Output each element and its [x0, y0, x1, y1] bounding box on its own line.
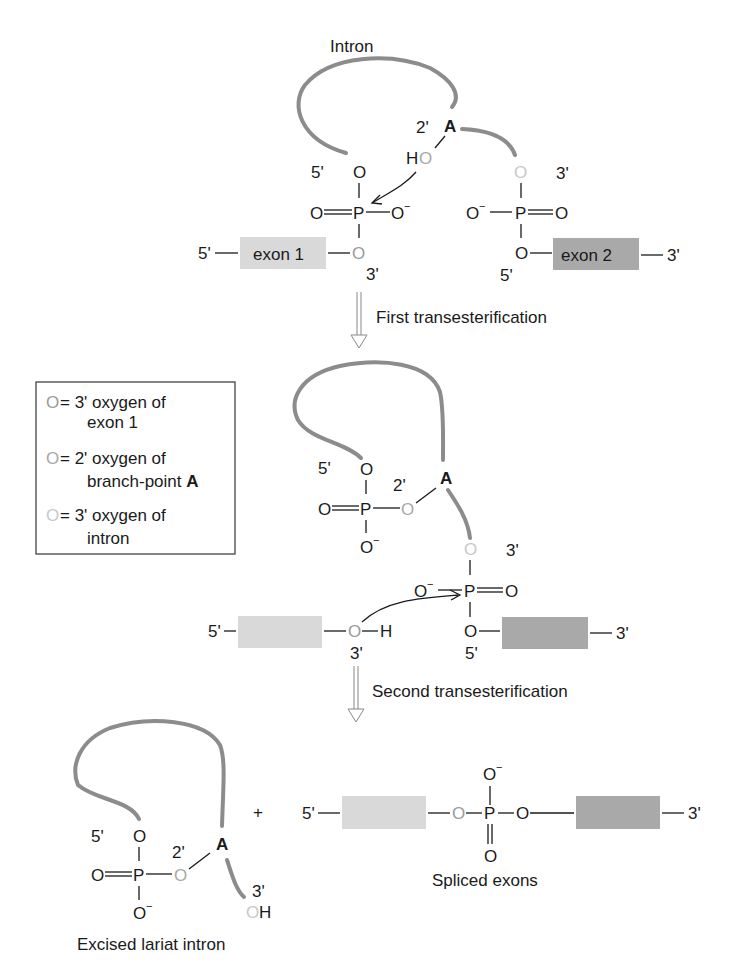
exon2-3prime: 3'	[616, 624, 629, 643]
oxygen: O	[464, 622, 477, 641]
oxygen: O	[484, 847, 497, 866]
oxygen-branch-a: O	[401, 500, 414, 519]
second-transesterification-label: Second transesterification	[372, 682, 568, 701]
exon-1-box	[238, 616, 322, 648]
legend-text: intron	[87, 529, 130, 548]
bond	[416, 488, 436, 503]
legend-oxygen-branch-icon: O	[46, 449, 59, 468]
oxygen: O	[133, 827, 146, 846]
intron-strand-3prime	[227, 860, 244, 897]
charge: −	[373, 534, 379, 546]
oxygen-exon1-3prime: O	[452, 804, 465, 823]
plus-sign: +	[253, 803, 263, 822]
oxygen-intron-3prime: O	[514, 163, 527, 182]
phosphorus: P	[133, 866, 144, 885]
phosphorus: P	[484, 804, 495, 823]
oxygen-branch-a: O	[174, 866, 187, 885]
oxygen: O	[505, 582, 518, 601]
nucleophilic-attack-arrow-2	[362, 595, 458, 622]
oxygen: O	[353, 163, 366, 182]
phosphorus: P	[464, 582, 475, 601]
oxygen-minus: O	[483, 765, 496, 784]
label-5prime: 5'	[318, 459, 331, 478]
exon2-5prime: 5'	[500, 266, 513, 285]
label-2prime: 2'	[416, 118, 429, 137]
exon1-3prime: 3'	[350, 644, 363, 663]
label-2prime: 2'	[393, 476, 406, 495]
exon-2-box	[502, 617, 588, 649]
charge: −	[404, 200, 410, 212]
first-transesterification-label: First transesterification	[376, 308, 547, 327]
exon2-3prime: 3'	[667, 246, 680, 265]
legend-oxygen-intron-icon: O	[46, 506, 59, 525]
exon-2-label: exon 2	[561, 246, 612, 265]
legend-text: = 3' oxygen of	[60, 393, 166, 412]
splicing-diagram: Intron A 2' H O 5' O O P O − 5' exon 1 O…	[0, 0, 737, 977]
stage-1-pre-mrna: Intron A 2' H O 5' O O P O − 5' exon 1 O…	[198, 37, 680, 285]
exon2-5prime: 5'	[465, 644, 478, 663]
bond	[189, 853, 210, 869]
lariat-strand	[75, 721, 223, 826]
intron-strand	[299, 58, 456, 153]
charge: −	[146, 900, 152, 912]
exon-2-box	[576, 796, 660, 829]
label-3prime: 3'	[252, 882, 265, 901]
legend-text: = 3' oxygen of	[60, 506, 166, 525]
phosphorus: P	[515, 204, 526, 223]
stage-3-products: A 5' O O P O 2' O − 3' O H Excised laria…	[75, 721, 700, 954]
label-5prime: 5'	[91, 827, 104, 846]
charge: −	[496, 761, 502, 773]
oxygen: O	[91, 866, 104, 885]
phosphorus: P	[360, 500, 371, 519]
nucleophilic-attack-arrow-1	[372, 172, 416, 203]
branch-point-a: A	[444, 117, 456, 136]
oxygen: O	[515, 244, 528, 263]
exon-1-label: exon 1	[253, 245, 304, 264]
step-1-arrow: First transesterification	[351, 292, 547, 348]
label-2prime: 2'	[172, 843, 185, 862]
oxygen-exon1-3prime: O	[348, 622, 361, 641]
label-5prime-intron: 5'	[311, 163, 324, 182]
exon1-5prime: 5'	[198, 244, 211, 263]
branch-point-a: A	[216, 835, 228, 854]
intron-strand-3prime	[448, 490, 470, 538]
oxygen-minus: O	[360, 538, 373, 557]
oxygen: O	[318, 500, 331, 519]
oxygen: O	[360, 460, 373, 479]
step-2-arrow: Second transesterification	[348, 666, 568, 722]
label-h: H	[259, 903, 271, 922]
exon1-5prime: 5'	[208, 622, 221, 641]
lariat-strand	[295, 362, 443, 460]
legend-text: branch-point A	[87, 472, 199, 491]
bond	[435, 136, 445, 148]
oxygen-minus: O	[133, 904, 146, 923]
oxygen-minus: O	[466, 204, 479, 223]
oxygen-exon1-3prime: O	[352, 244, 365, 263]
oxygen-intron-3prime: O	[464, 540, 477, 559]
exon-1-box	[342, 796, 426, 829]
spliced-caption: Spliced exons	[432, 871, 538, 890]
intron-label: Intron	[330, 37, 373, 56]
label-h: H	[406, 149, 418, 168]
label-3prime-intron: 3'	[556, 164, 569, 183]
stage-2-lariat-intermediate: A 5' O O P O 2' O − O 3' O − P O O 3' 5'…	[208, 362, 629, 663]
oxygen: O	[310, 204, 323, 223]
charge: −	[427, 578, 433, 590]
oxygen-branch-a: O	[419, 149, 432, 168]
branch-point-a: A	[440, 469, 452, 488]
legend-text: = 2' oxygen of	[60, 449, 166, 468]
oxygen: O	[555, 204, 568, 223]
oxygen-minus: O	[391, 204, 404, 223]
intron-strand-3prime	[462, 129, 515, 155]
oxygen: O	[516, 804, 529, 823]
label-h: H	[380, 622, 392, 641]
phosphorus: P	[353, 204, 364, 223]
exon1-3prime: 3'	[366, 265, 379, 284]
legend-text: exon 1	[87, 413, 138, 432]
lariat-caption: Excised lariat intron	[77, 935, 225, 954]
legend: O = 3' oxygen of exon 1 O = 2' oxygen of…	[36, 382, 235, 554]
charge: −	[479, 200, 485, 212]
spliced-5prime: 5'	[302, 804, 315, 823]
spliced-3prime: 3'	[688, 804, 701, 823]
label-3prime-intron: 3'	[506, 541, 519, 560]
